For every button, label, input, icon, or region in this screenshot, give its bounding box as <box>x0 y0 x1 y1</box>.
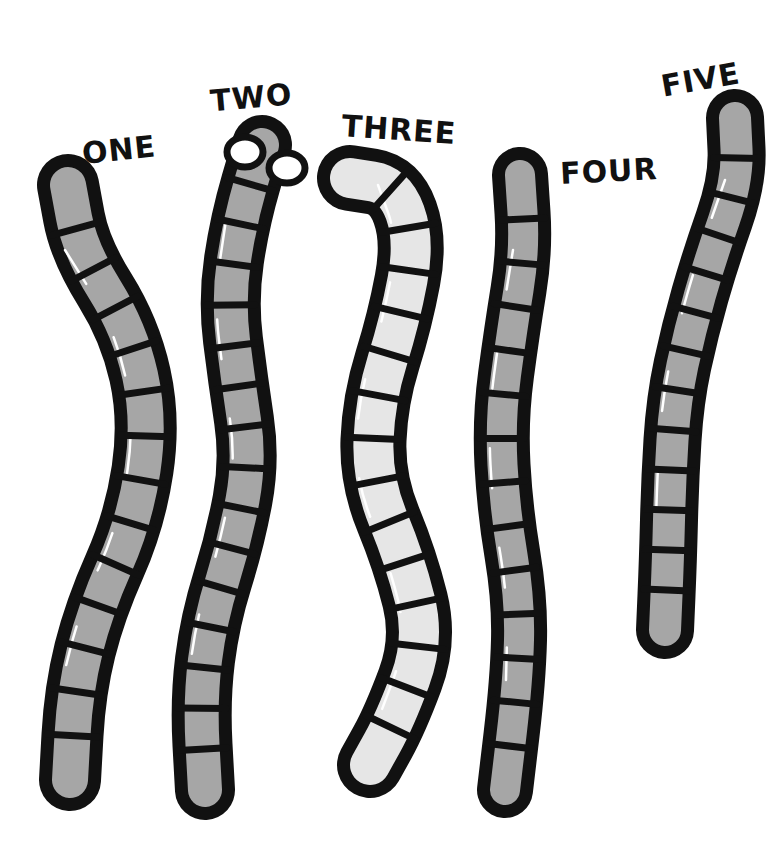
worm-segment-line <box>493 700 537 704</box>
worm-segment-line <box>645 549 691 550</box>
worm-segment-line <box>482 392 526 396</box>
worm-segment-line <box>222 466 270 469</box>
worm-segment-line <box>501 218 545 220</box>
worm-segment-line <box>500 261 544 265</box>
label-two: TWO <box>209 76 294 118</box>
worm-segment-line <box>180 665 228 670</box>
worm-segment-line <box>179 748 227 751</box>
worm-two <box>178 145 274 790</box>
worm-segment-line <box>644 589 690 591</box>
worm-three <box>347 170 445 765</box>
worm-segment-line <box>497 613 541 615</box>
worm-four <box>480 175 545 790</box>
left-eye-icon <box>227 137 263 167</box>
worm-segment-line <box>646 509 692 510</box>
worm-segment-line <box>650 428 696 432</box>
label-four: FOUR <box>559 151 658 191</box>
worm-segment-line <box>347 437 401 439</box>
worm-segment-line <box>648 469 694 471</box>
worm-segment-line <box>714 157 760 158</box>
right-eye-icon <box>269 153 305 183</box>
worm-segment-line <box>47 734 97 737</box>
worm-segment-line <box>178 708 226 709</box>
worm-segment-line <box>496 657 540 659</box>
worm-five <box>644 118 760 630</box>
worm-segment-line <box>121 435 171 437</box>
worm-one <box>47 185 170 780</box>
worm-segment-line <box>482 481 526 484</box>
label-three: THREE <box>341 108 458 151</box>
worms-illustration: ONE TWO THREE FOUR FIVE <box>0 0 771 856</box>
label-one: ONE <box>80 128 157 171</box>
